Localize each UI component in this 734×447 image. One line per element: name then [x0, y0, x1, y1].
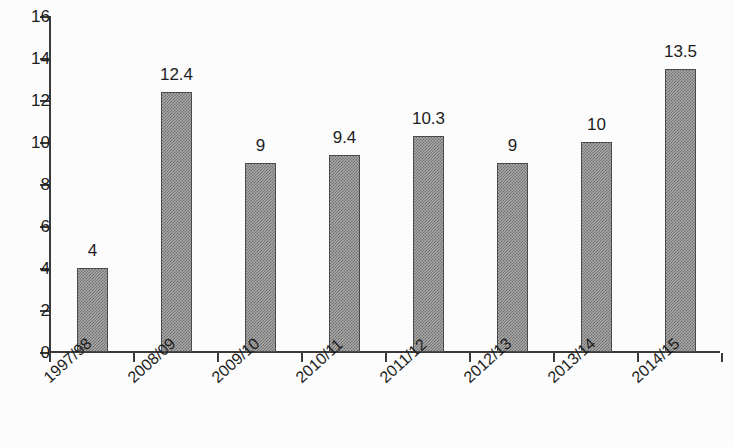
bar — [413, 136, 444, 352]
bar-value-label: 10.3 — [394, 110, 464, 127]
bar-value-label: 9 — [226, 137, 296, 154]
x-axis-tick-mark — [469, 353, 471, 362]
bar-value-label: 4 — [58, 242, 128, 259]
x-axis-tick-mark — [553, 353, 555, 362]
bar — [329, 155, 360, 352]
bar — [161, 92, 192, 352]
bar-value-label: 9.4 — [310, 129, 380, 146]
y-axis-tick-label: 16 — [16, 8, 50, 25]
bar — [245, 163, 276, 352]
y-axis-tick-label: 4 — [16, 260, 50, 277]
x-axis-tick-mark — [721, 353, 723, 362]
x-axis-tick-mark — [49, 353, 51, 362]
bar-value-label: 13.5 — [646, 43, 716, 60]
bar-value-label: 10 — [562, 116, 632, 133]
y-axis-tick-label: 2 — [16, 302, 50, 319]
bar — [665, 69, 696, 353]
x-axis-tick-mark — [385, 353, 387, 362]
x-axis-tick-mark — [301, 353, 303, 362]
y-axis-tick-label: 6 — [16, 218, 50, 235]
y-axis-tick-label: 12 — [16, 92, 50, 109]
bar-value-label: 12.4 — [142, 66, 212, 83]
y-axis-tick-label: 8 — [16, 176, 50, 193]
y-axis-tick-label: 14 — [16, 50, 50, 67]
x-axis-tick-mark — [133, 353, 135, 362]
bar — [581, 142, 612, 352]
bar-value-label: 9 — [478, 137, 548, 154]
bar — [497, 163, 528, 352]
y-axis-tick-label: 10 — [16, 134, 50, 151]
x-axis-tick-mark — [637, 353, 639, 362]
y-axis-tick-label: 0 — [16, 344, 50, 361]
bar-chart: 0246810121416 412.499.410.391013.5 1997/… — [0, 0, 734, 447]
x-axis-tick-mark — [217, 353, 219, 362]
